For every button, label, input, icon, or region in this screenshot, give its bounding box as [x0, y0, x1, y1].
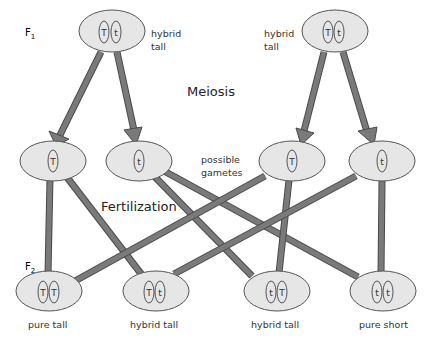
offspring-4-label: pure short [359, 318, 408, 331]
gamete-cell-2: t [106, 141, 172, 181]
svg-text:t: t [269, 288, 273, 298]
gamete-cell-3: T [259, 141, 325, 181]
allele: t [114, 28, 118, 38]
svg-text:T: T [39, 288, 46, 298]
offspring-cell-2: T t [123, 271, 189, 311]
svg-text:t: t [380, 157, 384, 167]
parent-right-label: hybrid tall [264, 27, 294, 53]
genetics-cross-diagram: T t T t T t T t [0, 0, 436, 349]
gamete-cell-4: t [349, 141, 415, 181]
allele: T [100, 28, 107, 38]
svg-text:T: T [49, 157, 56, 167]
svg-text:t: t [137, 157, 141, 167]
svg-text:T: T [50, 288, 57, 298]
gametes-label: possible gametes [201, 153, 242, 179]
gamete-cell-1: T [20, 141, 86, 181]
offspring-cell-4: t t [350, 271, 416, 311]
svg-text:t: t [375, 288, 379, 298]
svg-text:T: T [288, 157, 295, 167]
svg-text:T: T [145, 288, 152, 298]
offspring-2-label: hybrid tall [130, 318, 178, 331]
svg-text:t: t [386, 288, 390, 298]
generation-label-f2: F2 [25, 261, 35, 275]
svg-text:T: T [278, 288, 285, 298]
offspring-1-label: pure tall [28, 318, 67, 331]
offspring-3-label: hybrid tall [251, 318, 299, 331]
allele: T [324, 28, 331, 38]
svg-text:t: t [158, 288, 162, 298]
parent-cell-right: T t [302, 10, 368, 52]
meiosis-label: Meiosis [187, 84, 235, 99]
fertilization-connectors [48, 171, 382, 281]
generation-label-f1: F1 [25, 27, 35, 41]
offspring-cell-1: T T [16, 271, 82, 311]
fertilization-label: Fertilization [101, 199, 177, 214]
meiosis-arrows [49, 52, 377, 146]
offspring-cell-3: t T [244, 271, 310, 311]
parent-left-label: hybrid tall [151, 27, 181, 53]
parent-cell-left: T t [79, 10, 145, 52]
allele: t [337, 28, 341, 38]
